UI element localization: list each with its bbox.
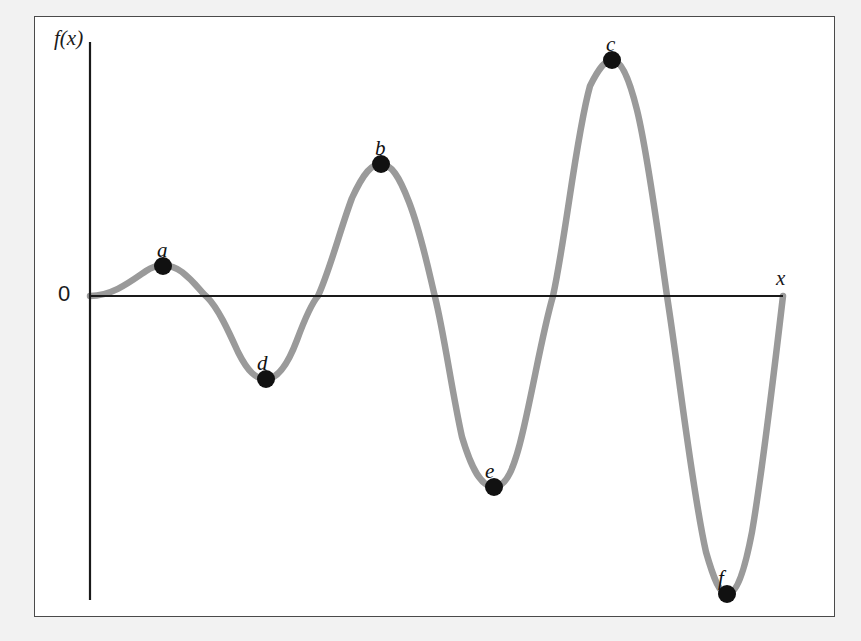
point-label-c: c: [606, 32, 615, 57]
y-axis-label: f(x): [54, 26, 83, 51]
point-label-b: b: [375, 136, 386, 161]
stationary-point-markers: [154, 51, 736, 603]
point-label-e: e: [485, 459, 494, 484]
function-curve: [90, 60, 783, 594]
figure-root: f(x) x 0 abcdef: [0, 0, 861, 641]
point-label-d: d: [257, 351, 268, 376]
point-label-a: a: [157, 238, 168, 263]
x-axis-label: x: [776, 266, 785, 291]
point-label-f: f: [718, 566, 724, 591]
function-plot: [0, 0, 861, 641]
origin-zero-label: 0: [58, 281, 70, 307]
